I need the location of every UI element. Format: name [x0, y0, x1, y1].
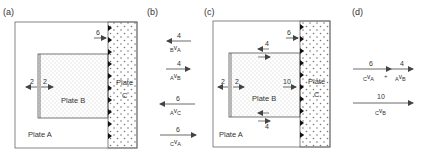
panel-a-label: (a): [3, 7, 14, 17]
plate-b-label: Plate B: [61, 96, 85, 105]
plate-velocity-diagram: (a) 6 2 2 Plate B Plate A Plate C (b): [0, 0, 428, 164]
plate-b-label: Plate B: [252, 94, 276, 103]
vector-label: AvC: [170, 107, 181, 116]
arrow-left-value: 2: [221, 78, 225, 85]
result-value: 10: [377, 93, 385, 100]
plate-c-letter: C: [314, 90, 320, 99]
panel-c-label: (c): [204, 7, 215, 17]
sum-value-1: 6: [369, 60, 373, 67]
plate-c-letter: C: [122, 91, 128, 100]
panel-d-label: (d): [352, 7, 363, 17]
vector-value: 6: [176, 95, 180, 102]
arrow-right-value: 2: [235, 78, 239, 85]
plate-c-label: Plate: [308, 77, 325, 86]
panel-a: (a) 6 2 2 Plate B Plate A Plate C: [3, 7, 137, 148]
sum-value-2: 4: [400, 60, 404, 67]
arrow-bottom-value: 4: [265, 123, 269, 130]
vector-label: CvA: [170, 138, 181, 147]
plate-b-region: [38, 54, 108, 118]
vector-value: 4: [177, 32, 181, 39]
vector-label: CvA: [363, 73, 374, 82]
plate-a-label: Plate A: [219, 130, 243, 139]
plate-c-label: Plate: [116, 78, 133, 87]
vector-label: AvB: [395, 73, 406, 82]
panel-b: (b) 4 BvA 4 AvB 6 AvC 6 CvA: [147, 7, 196, 147]
vector-value: 4: [177, 60, 181, 67]
arrow-c-value: 6: [287, 29, 291, 36]
arrow-b-value: 10: [283, 78, 291, 85]
vector-value: 6: [176, 126, 180, 133]
vector-c-v-a: 6 CvA: [160, 126, 196, 147]
panel-d: (d) 6 4 CvA + AvB 10 CvB: [352, 7, 413, 116]
arrow-top-value: 4: [265, 40, 269, 47]
arrow-c-value: 6: [96, 29, 100, 36]
vector-label: CvB: [375, 107, 386, 116]
vector-b-v-a: 4 BvA: [167, 32, 191, 53]
plate-b-region: [229, 53, 300, 117]
vector-label: AvB: [170, 72, 181, 81]
plus-sign: +: [384, 73, 388, 79]
vector-a-v-c: 6 AvC: [160, 95, 195, 116]
panel-b-label: (b): [147, 7, 158, 17]
vector-label: BvA: [170, 44, 181, 53]
vector-a-v-b: 4 AvB: [166, 60, 190, 81]
arrow-left-value: 2: [30, 78, 34, 85]
arrow-right-value: 2: [43, 78, 47, 85]
panel-c: (c) 6 4 4 2 2 10 Plate B Plate A: [204, 7, 330, 147]
plate-a-label: Plate A: [28, 130, 52, 139]
